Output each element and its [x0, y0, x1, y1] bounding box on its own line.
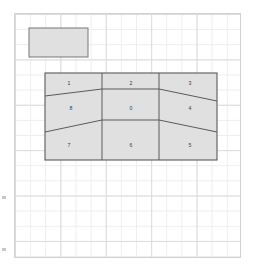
cell-label-6: 6 — [130, 142, 133, 148]
cell-label-2: 2 — [130, 80, 133, 86]
cell-label-3: 3 — [189, 80, 192, 86]
cell-label-7: 7 — [68, 142, 71, 148]
cell-label-1: 1 — [68, 80, 71, 86]
cell-label-0: 0 — [130, 105, 133, 111]
cell-label-5: 5 — [189, 142, 192, 148]
shapes-layer — [0, 0, 255, 271]
diagram-canvas: 1 2 3 8 0 4 7 6 5 — [0, 0, 255, 271]
cell-label-4: 4 — [189, 105, 192, 111]
legend-box[interactable] — [29, 28, 88, 57]
cell-label-8: 8 — [70, 105, 73, 111]
